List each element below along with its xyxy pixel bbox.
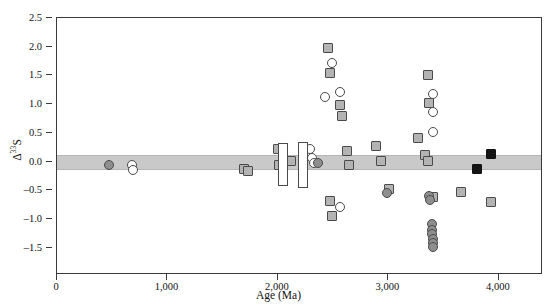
y-axis-tick: [46, 46, 52, 47]
y-axis-labels: 2.52.01.51.00.50.0–0.5–1.0–1.5: [0, 17, 52, 274]
data-point-circle-dark_grey: [425, 195, 435, 205]
data-point-square-black: [486, 149, 496, 159]
data-point-square-grey: [371, 141, 381, 151]
y-axis-title-element: S: [11, 139, 23, 145]
data-point-circle-white: [428, 127, 438, 137]
x-axis-tick: [277, 274, 278, 280]
data-point-square-grey: [423, 156, 433, 166]
y-axis-tick: [46, 132, 52, 133]
data-point-circle-white: [128, 165, 138, 175]
y-axis-tick-label: 1.5: [29, 69, 42, 80]
figure-root: 2.52.01.51.00.50.0–0.5–1.0–1.5 Δ33S 01,0…: [0, 0, 557, 306]
x-axis-tick: [498, 274, 499, 280]
data-point-square-grey: [413, 133, 423, 143]
data-point-circle-white: [335, 87, 345, 97]
data-point-circle-dark_grey: [382, 188, 392, 198]
y-axis-tick: [46, 17, 52, 18]
x-axis-tick: [166, 274, 167, 280]
y-axis-tick: [46, 74, 52, 75]
y-axis-tick-label: 2.5: [29, 12, 42, 23]
data-point-circle-white: [428, 89, 438, 99]
data-point-square-grey: [423, 70, 433, 80]
data-point-circle-white: [320, 92, 330, 102]
y-axis-tick-label: 2.0: [29, 40, 42, 51]
y-axis-tick: [46, 247, 52, 248]
data-range-bar: [278, 143, 288, 186]
y-axis-tick: [46, 161, 52, 162]
data-point-square-black: [472, 164, 482, 174]
y-axis-tick-label: –1.5: [24, 241, 42, 252]
data-point-square-grey: [486, 197, 496, 207]
data-point-square-grey: [376, 156, 386, 166]
y-axis-tick-label: –1.0: [24, 213, 42, 224]
y-axis-title: Δ33S: [9, 139, 23, 161]
y-axis-title-delta: Δ: [11, 153, 23, 160]
data-point-circle-dark_grey: [428, 242, 438, 252]
x-axis-title: Age (Ma): [0, 289, 557, 301]
data-point-square-grey: [323, 43, 333, 53]
data-point-circle-dark_grey: [313, 158, 323, 168]
data-point-square-grey: [456, 187, 466, 197]
y-axis-tick: [46, 218, 52, 219]
y-axis-tick-label: –0.5: [24, 184, 42, 195]
y-axis-tick: [46, 189, 52, 190]
data-range-bar: [298, 142, 308, 188]
data-point-circle-white: [428, 107, 438, 117]
data-point-square-grey: [325, 68, 335, 78]
plot-area: [56, 17, 542, 274]
x-axis-tick: [387, 274, 388, 280]
data-point-circle-white: [335, 202, 345, 212]
data-point-circle-white: [327, 58, 337, 68]
data-point-square-grey: [327, 211, 337, 221]
data-point-square-grey: [344, 160, 354, 170]
y-axis-tick-label: 1.0: [29, 98, 42, 109]
data-point-square-grey: [337, 111, 347, 121]
data-point-square-grey: [325, 196, 335, 206]
data-point-square-grey: [335, 100, 345, 110]
y-axis-tick-label: 0.5: [29, 126, 42, 137]
data-point-square-grey: [342, 146, 352, 156]
y-axis-title-superscript: 33: [9, 146, 18, 154]
y-axis-tick: [46, 103, 52, 104]
data-point-square-grey: [243, 166, 253, 176]
y-axis-tick-label: 0.0: [29, 155, 42, 166]
x-axis-tick: [56, 274, 57, 280]
